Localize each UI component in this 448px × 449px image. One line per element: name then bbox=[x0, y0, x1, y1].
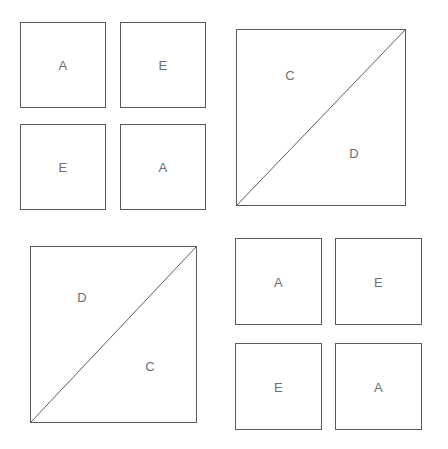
cell-label: E bbox=[336, 276, 421, 289]
cell-label: E bbox=[236, 381, 321, 394]
square-cell: A bbox=[335, 343, 422, 430]
square-cell: E bbox=[335, 238, 422, 325]
square-cell: E bbox=[235, 343, 322, 430]
figure-canvas: AEEACDDCAEEA bbox=[0, 0, 448, 449]
figure-bottom-right: AEEA bbox=[0, 0, 448, 449]
cell-label: A bbox=[236, 276, 321, 289]
cell-label: A bbox=[336, 381, 421, 394]
square-cell: A bbox=[235, 238, 322, 325]
